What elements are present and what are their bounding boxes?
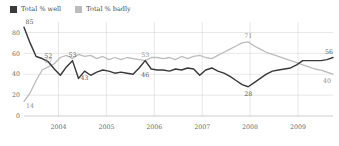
y-tick-label: 20 [12,91,20,98]
y-tick-label: 80 [12,29,20,36]
y-tick-label: 40 [12,70,20,77]
data-label: 71 [244,32,252,39]
legend-swatch-well [10,6,17,13]
plot-area: 020406080 200420052006200720082009 85525… [0,16,339,146]
legend-item-badly: Total % badly [75,6,131,13]
x-tick-label: 2006 [146,123,162,130]
data-label: 46 [141,71,149,78]
data-label: 40 [323,77,331,84]
x-tick-labels: 200420052006200720082009 [50,123,306,130]
data-label: 56 [325,48,333,55]
data-label: 53 [141,51,149,58]
y-tick-labels: 020406080 [12,29,20,120]
legend-item-well: Total % well [10,6,61,13]
y-tick-label: 0 [16,112,20,119]
x-tick-label: 2007 [194,123,210,130]
legend-label-well: Total % well [21,6,61,13]
data-label: 43 [81,74,89,81]
data-labels: 855253434628561447537140 [26,18,334,109]
chart-container: Total % well Total % badly 020406080 200… [0,0,339,146]
chart-legend: Total % well Total % badly [10,3,131,15]
x-tick-label: 2009 [290,123,306,130]
x-tick-label: 2008 [242,123,258,130]
data-label: 53 [68,51,76,58]
legend-label-badly: Total % badly [86,6,131,13]
x-tick-label: 2004 [50,123,66,130]
data-label: 14 [26,102,34,109]
data-label: 47 [44,57,52,64]
x-tick-label: 2005 [98,123,114,130]
data-label: 28 [244,90,252,97]
data-label: 85 [26,18,34,25]
legend-swatch-badly [75,6,82,13]
y-tick-label: 60 [12,50,20,57]
